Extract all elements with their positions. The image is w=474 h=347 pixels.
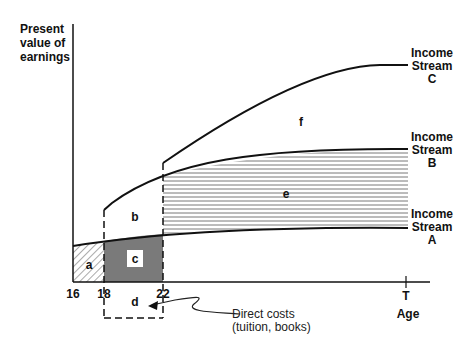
tick-label-18: 18	[97, 287, 111, 301]
region-a-label: a	[86, 258, 93, 272]
stream-a-label-1: Income	[411, 207, 453, 221]
tick-label-16: 16	[66, 287, 80, 301]
stream-c-label-3: C	[428, 72, 437, 86]
region-e-label: e	[283, 187, 290, 201]
region-c-label: c	[132, 252, 139, 266]
stream-b-label-2: Stream	[412, 143, 453, 157]
stream-c-label-1: Income	[411, 46, 453, 60]
direct-costs-annotation-1: Direct costs	[232, 307, 295, 321]
region-b-label: b	[131, 210, 138, 224]
stream-c-label-2: Stream	[412, 59, 453, 73]
y-axis-label-line3: earnings	[20, 50, 70, 64]
tick-label-T: T	[402, 289, 410, 303]
region-f-label: f	[299, 115, 304, 129]
stream-b-label-3: B	[428, 156, 437, 170]
stream-a-label-3: A	[428, 233, 437, 247]
x-axis-label: Age	[397, 307, 420, 321]
tick-label-22: 22	[156, 287, 170, 301]
region-d-label: d	[131, 295, 138, 309]
earnings-diagram: Present value of earnings 16 18 22 T Age…	[0, 0, 474, 347]
stream-b-label-1: Income	[411, 130, 453, 144]
arrowhead-icon	[148, 301, 158, 310]
direct-costs-annotation-2: (tuition, books)	[232, 320, 311, 334]
stream-a-label-2: Stream	[412, 220, 453, 234]
y-axis-label-line2: value of	[20, 36, 66, 50]
y-axis-label-line1: Present	[20, 22, 64, 36]
